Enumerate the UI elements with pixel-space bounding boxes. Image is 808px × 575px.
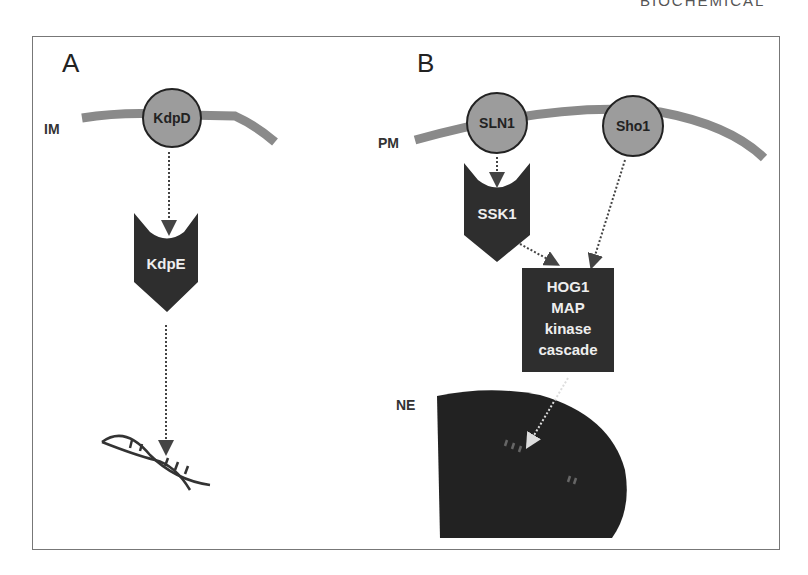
cascade-line-1: HOG1 <box>522 276 614 297</box>
pm-label: PM <box>378 135 399 151</box>
kdpe-label: KdpE <box>134 255 198 272</box>
im-label: IM <box>44 121 60 137</box>
ne-label: NE <box>396 397 415 413</box>
hog1-cascade-label: HOG1 MAP kinase cascade <box>522 276 614 360</box>
cascade-line-2: MAP <box>522 297 614 318</box>
cascade-line-3: kinase <box>522 318 614 339</box>
ssk1-label: SSK1 <box>464 205 530 222</box>
nucleus <box>437 390 627 538</box>
sho1-label: Sho1 <box>603 118 663 134</box>
kdpd-label: KdpD <box>143 110 201 126</box>
cascade-line-4: cascade <box>522 339 614 360</box>
sln1-label: SLN1 <box>467 115 527 131</box>
dna-icon-a <box>102 436 210 490</box>
diagram-canvas <box>0 0 808 575</box>
panel-a-label: A <box>62 48 79 79</box>
panel-b-label: B <box>417 48 434 79</box>
